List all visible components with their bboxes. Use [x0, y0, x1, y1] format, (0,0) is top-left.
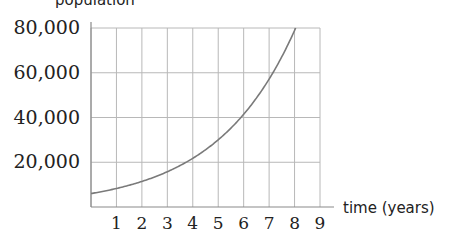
x-tick-label: 2 — [136, 213, 147, 233]
y-tick-labels: 20,00040,00060,00080,000 — [14, 16, 80, 172]
y-tick-label: 20,000 — [14, 150, 80, 172]
x-tick-labels: 123456789 — [111, 213, 325, 233]
y-axis-title: population — [55, 0, 135, 9]
y-tick-label: 40,000 — [14, 106, 80, 128]
population-growth-chart: 20,00040,00060,00080,000 123456789 popul… — [0, 0, 451, 251]
x-tick-label: 6 — [238, 213, 249, 233]
y-tick-label: 60,000 — [14, 61, 80, 83]
x-tick-label: 8 — [289, 213, 300, 233]
grid-lines — [91, 28, 320, 207]
x-tick-label: 1 — [111, 213, 122, 233]
x-tick-label: 5 — [213, 213, 224, 233]
x-tick-label: 3 — [162, 213, 173, 233]
x-tick-label: 4 — [187, 213, 198, 233]
x-tick-label: 7 — [264, 213, 275, 233]
population-curve — [91, 28, 296, 194]
axes — [91, 22, 334, 207]
x-axis-title: time (years) — [343, 199, 435, 217]
x-tick-label: 9 — [315, 213, 326, 233]
y-tick-label: 80,000 — [14, 16, 80, 38]
